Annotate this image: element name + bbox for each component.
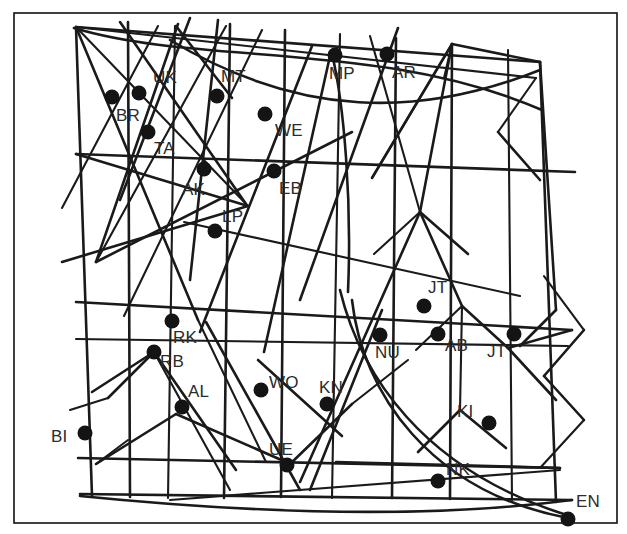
- mesh-segment: [460, 306, 462, 410]
- node-marker-ta-2[interactable]: [141, 125, 156, 140]
- node-marker-we-4[interactable]: [258, 107, 273, 122]
- mesh-segment: [96, 414, 176, 464]
- mesh-segment: [540, 420, 584, 468]
- node-marker-ue-21[interactable]: [280, 458, 295, 473]
- mesh-segment: [544, 376, 584, 420]
- mesh-segment: [420, 212, 462, 306]
- network-diagram-figure: BRUKTAMTWEMPARAKEBLPJTNUABJTRKRBALWOKNKI…: [0, 0, 627, 534]
- mesh-segment: [170, 470, 560, 500]
- mesh-segment: [460, 410, 506, 448]
- mesh-segment: [154, 352, 236, 470]
- node-marker-ak-7[interactable]: [197, 162, 212, 177]
- mesh-segment: [96, 440, 128, 464]
- node-marker-wo-17[interactable]: [254, 383, 269, 398]
- mesh-segment: [92, 352, 154, 392]
- node-marker-eb-8[interactable]: [267, 164, 282, 179]
- node-marker-bi-20[interactable]: [78, 426, 93, 441]
- mesh-segment: [498, 132, 540, 180]
- node-marker-br-0[interactable]: [105, 90, 120, 105]
- mesh-segment: [184, 222, 520, 296]
- node-marker-ki-19[interactable]: [482, 416, 497, 431]
- node-marker-jt-10[interactable]: [417, 299, 432, 314]
- node-marker-nu-11[interactable]: [373, 328, 388, 343]
- node-marker-en-23[interactable]: [561, 512, 576, 527]
- mesh-segment: [264, 56, 330, 352]
- node-marker-mp-5[interactable]: [328, 48, 343, 63]
- node-marker-al-16[interactable]: [175, 400, 190, 415]
- node-marker-nk-22[interactable]: [431, 474, 446, 489]
- node-marker-jt-13[interactable]: [507, 327, 522, 342]
- node-marker-lp-9[interactable]: [208, 224, 223, 239]
- mesh-segment: [420, 212, 468, 254]
- mesh-segment: [374, 212, 420, 254]
- node-marker-ab-12[interactable]: [431, 327, 446, 342]
- mesh-segment: [76, 339, 568, 346]
- node-marker-kn-18[interactable]: [320, 397, 335, 412]
- node-marker-ar-6[interactable]: [380, 47, 395, 62]
- node-marker-rk-14[interactable]: [165, 314, 180, 329]
- mesh-segment: [450, 44, 452, 499]
- node-marker-uk-1[interactable]: [132, 86, 147, 101]
- mesh-segment: [76, 302, 572, 330]
- mesh-canvas: [0, 0, 627, 534]
- mesh-segment: [508, 348, 556, 400]
- node-marker-mt-3[interactable]: [210, 89, 225, 104]
- mesh-segment: [128, 22, 130, 497]
- node-marker-rb-15[interactable]: [147, 345, 162, 360]
- mesh-segment: [108, 352, 154, 398]
